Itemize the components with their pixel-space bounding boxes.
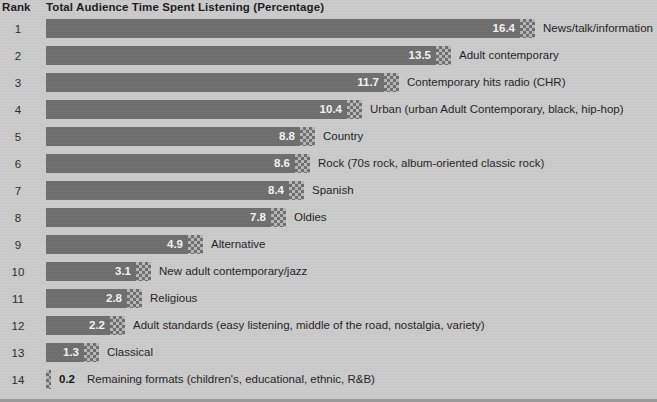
category-label: Religious <box>150 289 197 308</box>
bar: 2.2 <box>46 316 110 335</box>
bar-dither-cap <box>436 46 451 65</box>
bar-value-label: 7.8 <box>250 208 271 227</box>
category-label: Urban (urban Adult Contemporary, black, … <box>370 100 624 119</box>
bar: 7.8 <box>46 208 271 227</box>
rank-cell: 8 <box>0 209 36 228</box>
bar-container: 8.4 <box>46 181 304 200</box>
rank-cell: 5 <box>0 128 36 147</box>
bar-container: 4.9 <box>46 235 203 254</box>
bar-dither-cap <box>110 316 125 335</box>
bar-container: 7.8 <box>46 208 286 227</box>
bar-container: 8.8 <box>46 127 315 146</box>
rank-cell: 13 <box>0 344 36 363</box>
bar-row: 122.2Adult standards (easy listening, mi… <box>0 314 657 341</box>
bar-container: 2.8 <box>46 289 142 308</box>
bar: 1.3 <box>46 343 84 362</box>
bar-row: 140.2Remaining formats (children's, educ… <box>0 368 657 395</box>
bar-row: 87.8Oldies <box>0 206 657 233</box>
bar: 8.6 <box>46 154 295 173</box>
bar-value-label: 0.2 <box>59 370 75 389</box>
bar: 8.4 <box>46 181 289 200</box>
category-label: Adult contemporary <box>459 46 559 65</box>
category-label: Alternative <box>211 235 265 254</box>
bar-row: 311.7Contemporary hits radio (CHR) <box>0 71 657 98</box>
rank-cell: 11 <box>0 290 36 309</box>
bar-dither-cap <box>384 73 399 92</box>
bar-container: 1.3 <box>46 343 99 362</box>
bar-container: 10.4 <box>46 100 362 119</box>
bar-value-label: 8.4 <box>268 181 289 200</box>
bar-dither-cap <box>347 100 362 119</box>
bar-value-label: 13.5 <box>409 46 436 65</box>
bar-value-label: 11.7 <box>357 73 384 92</box>
bar-container: 13.5 <box>46 46 451 65</box>
category-label: Contemporary hits radio (CHR) <box>407 73 566 92</box>
bar-value-label: 10.4 <box>320 100 347 119</box>
bar-value-label: 16.4 <box>493 19 520 38</box>
bar-dither-cap <box>295 154 310 173</box>
bar-row: 78.4Spanish <box>0 179 657 206</box>
bar: 8.8 <box>46 127 300 146</box>
bar-dither-cap <box>188 235 203 254</box>
rank-cell: 9 <box>0 236 36 255</box>
bar-dither-cap <box>127 289 142 308</box>
category-label: New adult contemporary/jazz <box>159 262 307 281</box>
bar-container: 16.4 <box>46 19 535 38</box>
bar-row: 116.4News/talk/information <box>0 17 657 44</box>
bar-value-label: 1.3 <box>63 343 84 362</box>
bar-row: 68.6Rock (70s rock, album-oriented class… <box>0 152 657 179</box>
bar: 4.9 <box>46 235 188 254</box>
bar: 10.4 <box>46 100 347 119</box>
bar: 2.8 <box>46 289 127 308</box>
bar-value-label: 2.8 <box>106 289 127 308</box>
bar-value-label: 4.9 <box>167 235 188 254</box>
bar-dither-cap <box>136 262 151 281</box>
bar-value-label: 8.8 <box>279 127 300 146</box>
bar: 11.7 <box>46 73 384 92</box>
bar-value-label: 2.2 <box>89 316 110 335</box>
rank-cell: 10 <box>0 263 36 282</box>
category-label: Oldies <box>294 208 327 227</box>
category-label: Remaining formats (children's, education… <box>87 370 375 389</box>
bar-dither-cap <box>520 19 535 38</box>
rank-cell: 1 <box>0 20 36 39</box>
bar-dither-cap <box>271 208 286 227</box>
bar-row: 112.8Religious <box>0 287 657 314</box>
bar-row: 410.4Urban (urban Adult Contemporary, bl… <box>0 98 657 125</box>
category-label: Rock (70s rock, album-oriented classic r… <box>318 154 544 173</box>
rank-cell: 7 <box>0 182 36 201</box>
bar-row: 58.8Country <box>0 125 657 152</box>
column-header-rank: Rank <box>2 1 31 13</box>
bar-container: 3.1 <box>46 262 151 281</box>
chart-header: Rank Total Audience Time Spent Listening… <box>0 1 657 17</box>
bar: 16.4 <box>46 19 520 38</box>
bar-container: 2.2 <box>46 316 125 335</box>
category-label: Country <box>323 127 363 146</box>
bar-rows: 116.4News/talk/information213.5Adult con… <box>0 17 657 395</box>
bar-row: 103.1New adult contemporary/jazz <box>0 260 657 287</box>
bar: 13.5 <box>46 46 436 65</box>
bar-dither-cap <box>300 127 315 146</box>
bar-dither-cap <box>289 181 304 200</box>
bar-container <box>46 370 51 389</box>
rank-cell: 2 <box>0 47 36 66</box>
category-label: News/talk/information <box>543 19 653 38</box>
rank-cell: 12 <box>0 317 36 336</box>
bar-container: 8.6 <box>46 154 310 173</box>
bar-row: 94.9Alternative <box>0 233 657 260</box>
rank-cell: 3 <box>0 74 36 93</box>
bar-dither-cap <box>46 370 51 389</box>
category-label: Adult standards (easy listening, middle … <box>133 316 485 335</box>
rank-cell: 4 <box>0 101 36 120</box>
bar-value-label: 8.6 <box>274 154 295 173</box>
bar-value-label: 3.1 <box>115 262 136 281</box>
bar-dither-cap <box>84 343 99 362</box>
bar-row: 131.3Classical <box>0 341 657 368</box>
category-label: Classical <box>107 343 153 362</box>
bar-container: 11.7 <box>46 73 399 92</box>
bar-row: 213.5Adult contemporary <box>0 44 657 71</box>
chart-title: Total Audience Time Spent Listening (Per… <box>46 1 324 13</box>
rank-cell: 14 <box>0 371 36 390</box>
chart-page: Rank Total Audience Time Spent Listening… <box>0 0 657 402</box>
rank-cell: 6 <box>0 155 36 174</box>
